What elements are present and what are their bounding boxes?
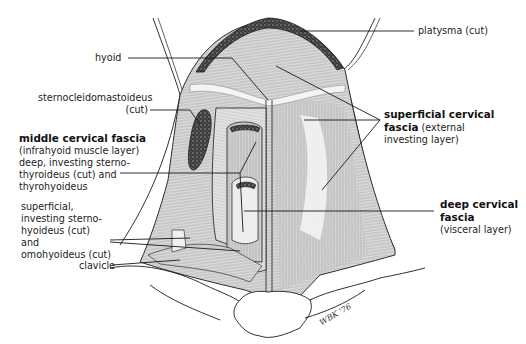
label-hyoid: hyoid: [95, 52, 121, 64]
superficial-sub-1: (external: [422, 122, 465, 133]
label-clavicle: clavicle: [79, 260, 115, 272]
middle-sub-2: deep, investing sterno-: [19, 157, 146, 169]
superficial-title-2: fascia: [384, 121, 418, 133]
middle-title: middle cervical fascia: [19, 132, 146, 144]
middle-sub-3: thyroideus (cut) and: [19, 169, 146, 181]
label-platysma: platysma (cut): [418, 25, 488, 37]
superficial-sub-2: investing layer): [384, 134, 494, 146]
label-deep-cervical-fascia: deep cervical fascia (visceral layer): [440, 198, 518, 236]
label-superficial-investing: superficial, investing sterno- hyoideus …: [21, 201, 111, 261]
sternum: [234, 291, 311, 337]
deep-sub: (visceral layer): [440, 224, 518, 236]
label-superficial-cervical-fascia: superficial cervical fascia (external in…: [384, 108, 494, 146]
sup-line-3: hyoideus (cut): [21, 225, 111, 237]
deep-title-2: fascia: [440, 211, 474, 223]
label-middle-cervical-fascia: middle cervical fascia (infrahyoid muscl…: [19, 132, 146, 193]
sup-line-4: and: [21, 237, 111, 249]
middle-sub-4: thyrohyoideus: [19, 181, 146, 193]
superficial-title: superficial cervical: [384, 108, 494, 120]
anatomy-figure: platysma (cut) hyoid sternocleidomastoid…: [0, 0, 526, 344]
deep-title: deep cervical: [440, 198, 518, 210]
label-scm-line1: sternocleidomastoideus: [38, 92, 148, 104]
sup-line-1: superficial,: [21, 201, 111, 213]
middle-sub-1: (infrahyoid muscle layer): [19, 145, 146, 157]
label-scm: sternocleidomastoideus (cut): [38, 92, 148, 116]
label-scm-line2: (cut): [38, 104, 148, 116]
sup-line-2: investing sterno-: [21, 213, 111, 225]
